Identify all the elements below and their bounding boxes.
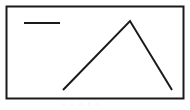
scan-artifacts xyxy=(62,102,99,106)
line-chart-figure xyxy=(0,0,190,110)
figure-container xyxy=(0,0,190,110)
plot-border xyxy=(7,7,184,99)
